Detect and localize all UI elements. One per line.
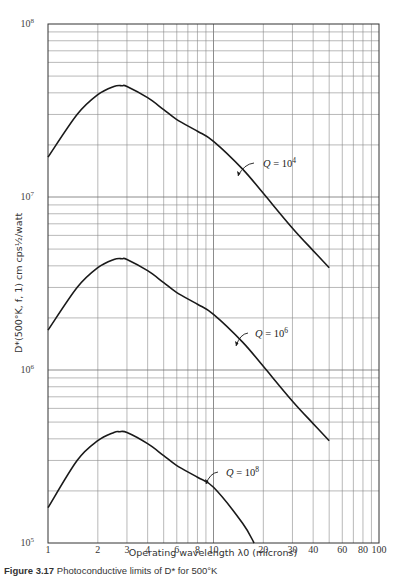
curve-q-8: [48, 431, 254, 543]
curve-label-q-4: Q = 104: [263, 156, 296, 169]
figure-caption-text: Photoconductive limits of D* for 500°K: [57, 565, 218, 576]
curve-q-6: [48, 258, 329, 440]
x-tick-label: 60: [337, 544, 347, 555]
y-axis-title: D*(500°K, f, 1) cm cps½/watt: [13, 213, 24, 354]
y-tick-label: 107: [21, 190, 35, 202]
x-tick-label: 1: [46, 544, 51, 555]
curve-q-4: [48, 85, 329, 267]
figure-caption: Figure 3.17 Photoconductive limits of D*…: [4, 565, 217, 576]
leader-line: [238, 163, 254, 176]
curve-label-q-6: Q = 106: [255, 326, 288, 339]
x-tick-label: 2: [95, 544, 100, 555]
y-tick-label: 106: [21, 363, 35, 375]
x-tick-label: 40: [308, 544, 318, 555]
grid: [48, 24, 379, 543]
curves: [48, 85, 329, 543]
x-axis-title: Operating wavelength λ0 (microns): [129, 547, 298, 558]
y-tick-label: 105: [21, 536, 35, 548]
curve-label-q-8: Q = 108: [226, 465, 259, 478]
x-tick-label: 100: [372, 544, 387, 555]
x-tick-label: 80: [358, 544, 368, 555]
figure-label: Figure 3.17: [4, 565, 54, 576]
y-tick-label: 108: [21, 17, 35, 29]
chart: Q = 104Q = 106Q = 108 123468102030406080…: [0, 0, 398, 576]
